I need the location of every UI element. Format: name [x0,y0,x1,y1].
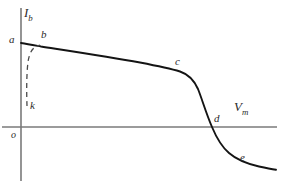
x-axis-label: Vm [234,100,248,116]
point-label-k: k [30,100,35,111]
x-axis-label-sub: m [242,107,248,117]
point-label-b: b [41,29,47,40]
y-axis-label: Ib [24,6,33,22]
point-label-d: d [214,113,220,124]
diagram-figure: Ib Vm o a b c d e k [0,0,283,188]
point-label-c: c [175,56,180,67]
origin-label: o [11,130,16,140]
point-label-e: e [240,152,245,163]
dashed-branch-curve [27,45,40,106]
x-axis-label-main: V [234,99,242,114]
y-axis-label-sub: b [28,13,32,23]
point-label-a: a [9,34,15,45]
